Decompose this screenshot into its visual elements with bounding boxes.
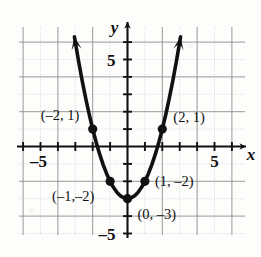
x-axis-label: x bbox=[246, 145, 256, 164]
data-point bbox=[123, 194, 132, 203]
y-tick-label-neg5: –5 bbox=[98, 225, 116, 244]
data-point bbox=[158, 125, 167, 134]
point-label-2-1: (2, 1) bbox=[173, 109, 205, 126]
x-tick-label-5: 5 bbox=[210, 152, 219, 171]
x-tick-label-neg5: –5 bbox=[29, 152, 47, 171]
point-label-neg2-1: (–2, 1) bbox=[41, 107, 80, 124]
y-tick-label-5: 5 bbox=[107, 51, 116, 70]
graph-figure: yx–555–5(–2, 1)(–1,–2)(0, –3)(1, –2)(2, … bbox=[0, 0, 261, 257]
coordinate-plane-svg: yx–555–5(–2, 1)(–1,–2)(0, –3)(1, –2)(2, … bbox=[0, 0, 261, 257]
data-point bbox=[140, 177, 149, 186]
point-label-0-neg3: (0, –3) bbox=[138, 206, 177, 223]
data-point bbox=[106, 177, 115, 186]
data-point bbox=[88, 125, 97, 134]
point-label-neg1-neg2: (–1,–2) bbox=[52, 188, 94, 205]
y-axis-label: y bbox=[109, 18, 119, 37]
point-label-1-neg2: (1, –2) bbox=[155, 173, 194, 190]
